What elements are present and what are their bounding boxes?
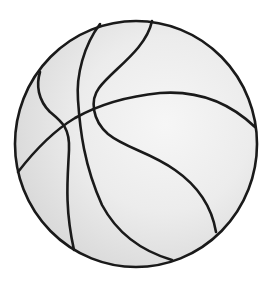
basketball-icon <box>0 0 272 285</box>
basketball-illustration: Basketball <box>0 0 272 285</box>
ball-outline <box>15 21 257 267</box>
